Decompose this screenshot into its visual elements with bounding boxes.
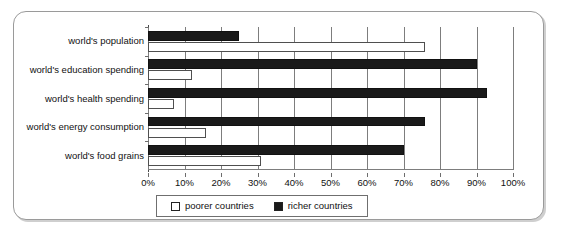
value-tick-label: 30% bbox=[248, 178, 267, 188]
value-tick-label: 40% bbox=[284, 178, 303, 188]
legend-label: poorer countries bbox=[185, 201, 254, 211]
bar-group bbox=[148, 141, 513, 170]
chart-frame: world's populationworld's education spen… bbox=[13, 11, 544, 220]
value-tick-label: 10% bbox=[175, 178, 194, 188]
bar-group bbox=[148, 113, 513, 142]
value-tick-label: 100% bbox=[501, 178, 525, 188]
white-square-icon bbox=[171, 202, 180, 211]
value-tick-label: 50% bbox=[321, 178, 340, 188]
legend-label: richer countries bbox=[288, 201, 353, 211]
bar-richer-countries bbox=[148, 117, 425, 127]
value-tick-label: 90% bbox=[467, 178, 486, 188]
category-axis-labels: world's populationworld's education spen… bbox=[14, 27, 144, 170]
value-tick-label: 20% bbox=[211, 178, 230, 188]
bar-poorer-countries bbox=[148, 42, 425, 52]
legend-item: poorer countries bbox=[171, 201, 254, 211]
bar-poorer-countries bbox=[148, 99, 174, 109]
bar-richer-countries bbox=[148, 59, 477, 69]
value-tick-label: 60% bbox=[357, 178, 376, 188]
value-tick-label: 0% bbox=[141, 178, 155, 188]
category-label: world's population bbox=[14, 36, 144, 46]
category-tick-mark bbox=[145, 27, 149, 28]
value-tick-label: 80% bbox=[430, 178, 449, 188]
bar-poorer-countries bbox=[148, 128, 206, 138]
bar-group bbox=[148, 84, 513, 113]
bar-poorer-countries bbox=[148, 70, 192, 80]
value-tick-label: 70% bbox=[394, 178, 413, 188]
bar-richer-countries bbox=[148, 31, 239, 41]
bar-group bbox=[148, 56, 513, 85]
gridline bbox=[513, 27, 514, 170]
category-tick-mark bbox=[145, 141, 149, 142]
chart-legend: poorer countriesricher countries bbox=[156, 195, 368, 217]
bar-group bbox=[148, 27, 513, 56]
category-tick-mark bbox=[145, 84, 149, 85]
bar-chart: world's populationworld's education spen… bbox=[14, 12, 545, 221]
plot-area bbox=[148, 27, 513, 170]
bar-richer-countries bbox=[148, 88, 487, 98]
category-label: world's food grains bbox=[14, 151, 144, 161]
bar-poorer-countries bbox=[148, 156, 261, 166]
legend-item: richer countries bbox=[274, 201, 353, 211]
black-square-icon bbox=[274, 202, 283, 211]
category-label: world's energy consumption bbox=[14, 122, 144, 132]
value-axis-tick-labels: 0%10%20%30%40%50%60%70%80%90%100% bbox=[148, 173, 513, 187]
category-tick-mark bbox=[145, 56, 149, 57]
category-tick-mark bbox=[145, 113, 149, 114]
category-label: world's education spending bbox=[14, 65, 144, 75]
category-label: world's health spending bbox=[14, 94, 144, 104]
bar-richer-countries bbox=[148, 145, 404, 155]
